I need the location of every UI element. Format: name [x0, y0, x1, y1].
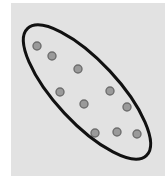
- data-point-dot: [74, 65, 82, 73]
- cluster-diagram: [0, 0, 168, 185]
- data-point-dot: [80, 100, 88, 108]
- data-point-dot: [33, 42, 41, 50]
- data-point-dot: [91, 129, 99, 137]
- data-point-dot: [56, 88, 64, 96]
- data-point-dot: [123, 103, 131, 111]
- data-point-dot: [113, 128, 121, 136]
- background-panel: [11, 3, 165, 176]
- data-point-dot: [48, 52, 56, 60]
- data-point-dot: [133, 130, 141, 138]
- data-point-dot: [106, 87, 114, 95]
